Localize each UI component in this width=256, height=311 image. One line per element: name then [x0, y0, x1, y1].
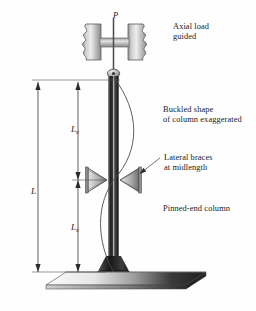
lateral-braces-line-1: Lateral braces	[164, 153, 213, 163]
leader-lines	[140, 158, 161, 174]
guide-connecting-bar	[100, 38, 129, 47]
dimension-Le-lower-subscript: e	[76, 227, 79, 233]
lateral-braces-annotation: Lateral braces at midlength	[164, 153, 213, 173]
dimension-line-L	[35, 82, 40, 272]
buckled-shape-annotation: Buckled shape of column exaggerated	[163, 105, 242, 125]
buckled-shape-line-2: of column exaggerated	[163, 115, 242, 125]
column-buckling-diagram: P Axial load guided Buckled shape of col…	[0, 0, 256, 311]
base-plate	[46, 272, 206, 289]
axial-load-assembly	[82, 24, 146, 60]
dimension-Le-upper-subscript: e	[76, 129, 79, 135]
extension-lines	[32, 80, 120, 272]
axial-load-line-1: Axial load	[173, 22, 209, 32]
axial-load-symbol: P	[113, 10, 118, 20]
axial-load-line-2: guided	[173, 32, 209, 42]
dimension-L-symbol: L	[31, 186, 36, 196]
dimension-label-Le-lower: Le	[71, 222, 79, 234]
guide-block-right	[128, 24, 147, 60]
column-shaft	[109, 76, 119, 272]
axial-load-annotation: Axial load guided	[173, 22, 209, 42]
diagram-canvas	[0, 0, 256, 311]
dimension-label-L: L	[31, 186, 36, 198]
dimension-label-Le-upper: Le	[71, 124, 79, 136]
buckled-shape-line-1: Buckled shape	[163, 105, 242, 115]
guide-block-left	[82, 24, 101, 60]
lateral-braces-line-2: at midlength	[164, 163, 213, 173]
pinned-end-annotation: Pinned-end column	[163, 204, 230, 214]
